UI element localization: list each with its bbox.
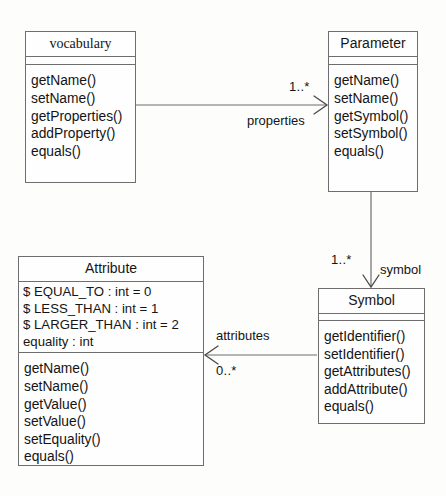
operation-item: getName() [24, 360, 203, 378]
class-name-parameter: Parameter [329, 32, 417, 57]
attributes-compartment-attribute: $ EQUAL_TO : int = 0 $ LESS_THAN : int =… [19, 282, 203, 353]
operation-item: setValue() [24, 413, 203, 431]
multiplicity-parameter-symbol: 1..* [331, 252, 352, 267]
operation-item: setSymbol() [334, 125, 417, 143]
multiplicity-vocabulary-parameter: 1..* [289, 79, 310, 94]
attribute-item: $ EQUAL_TO : int = 0 [23, 284, 203, 301]
class-box-vocabulary[interactable]: vocabulary getName() setName() getProper… [25, 31, 136, 183]
class-box-parameter[interactable]: Parameter getName() setName() getSymbol(… [328, 31, 418, 192]
operation-item: setName() [334, 90, 417, 108]
operation-item: equals() [31, 143, 135, 161]
operation-item: setIdentifier() [324, 346, 424, 364]
role-label-properties: properties [247, 113, 305, 128]
attribute-item: $ LARGER_THAN : int = 2 [23, 317, 203, 334]
operation-item: addProperty() [31, 125, 135, 143]
operation-item: equals() [24, 448, 203, 466]
association-parameter-symbol [363, 192, 379, 287]
operation-item: setName() [31, 90, 135, 108]
association-vocabulary-parameter [136, 96, 327, 114]
attributes-compartment-parameter [329, 57, 417, 65]
role-label-attributes: attributes [216, 328, 269, 343]
operations-compartment-vocabulary: getName() setName() getProperties() addP… [26, 65, 135, 182]
role-label-symbol: symbol [380, 262, 421, 277]
operations-compartment-attribute: getName() setName() getValue() setValue(… [19, 353, 203, 473]
operation-item: addAttribute() [324, 381, 424, 399]
class-name-symbol: Symbol [319, 289, 424, 314]
operation-item: equals() [334, 143, 417, 161]
operation-item: getValue() [24, 396, 203, 414]
attributes-compartment-vocabulary [26, 57, 135, 65]
operation-item: getProperties() [31, 108, 135, 126]
operation-item: getSymbol() [334, 108, 417, 126]
operations-compartment-symbol: getIdentifier() setIdentifier() getAttri… [319, 321, 424, 423]
operation-item: setEquality() [24, 431, 203, 449]
association-symbol-attribute [205, 346, 317, 364]
attribute-item: $ LESS_THAN : int = 1 [23, 301, 203, 318]
class-name-vocabulary: vocabulary [26, 32, 135, 57]
class-name-attribute: Attribute [19, 257, 203, 282]
operation-item: getName() [334, 72, 417, 90]
operation-item: equals() [324, 398, 424, 416]
attributes-compartment-symbol [319, 314, 424, 321]
operation-item: setName() [24, 378, 203, 396]
operation-item: getAttributes() [324, 363, 424, 381]
class-box-attribute[interactable]: Attribute $ EQUAL_TO : int = 0 $ LESS_TH… [18, 256, 204, 466]
multiplicity-symbol-attribute: 0..* [216, 363, 237, 378]
uml-class-diagram: vocabulary getName() setName() getProper… [0, 0, 446, 496]
class-box-symbol[interactable]: Symbol getIdentifier() setIdentifier() g… [318, 288, 425, 424]
operations-compartment-parameter: getName() setName() getSymbol() setSymbo… [329, 65, 417, 191]
attribute-item: equality : int [23, 334, 203, 351]
operation-item: getName() [31, 72, 135, 90]
operation-item: getIdentifier() [324, 328, 424, 346]
